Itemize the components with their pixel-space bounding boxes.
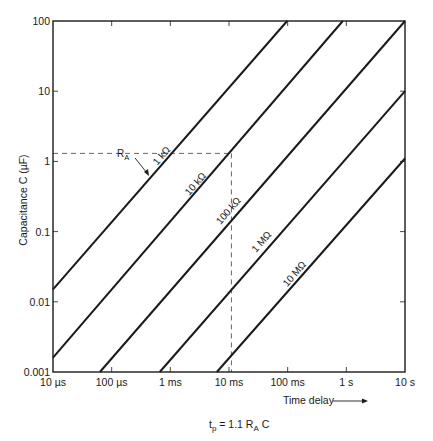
capacitance-time-delay-chart: 10 µs100 µs1 ms10 ms100 ms1 s10 s 100101… xyxy=(0,0,433,441)
series-line xyxy=(217,158,405,372)
svg-text:RA: RA xyxy=(117,148,129,162)
formula: tp = 1.1 RA C xyxy=(209,418,270,433)
series-lines xyxy=(53,21,405,372)
x-tick-label: 100 ms xyxy=(270,376,304,388)
y-tick-label: 1 xyxy=(44,155,50,167)
y-axis-title: Capacitance C (µF) xyxy=(17,154,29,245)
pointer-arrow-icon xyxy=(135,158,147,173)
series-line xyxy=(160,91,405,372)
svg-text:Time delay: Time delay xyxy=(283,394,335,406)
x-tick-label: 1 ms xyxy=(159,376,182,388)
x-tick-label: 10 s xyxy=(395,376,415,388)
y-tick-label: 100 xyxy=(32,15,50,27)
ra-annotation: RA xyxy=(117,148,149,176)
plot-frame xyxy=(53,21,405,372)
x-tick-labels: 10 µs100 µs1 ms10 ms100 ms1 s10 s xyxy=(40,376,415,388)
y-tick-label: 0.1 xyxy=(35,226,50,238)
series-label: 100 kΩ xyxy=(214,195,244,227)
y-tick-label: 0.001 xyxy=(24,366,50,378)
x-tick-label: 10 ms xyxy=(215,376,244,388)
axis-ticks xyxy=(53,21,405,372)
x-axis-title: Time delay xyxy=(283,394,368,406)
series-label: 1 MΩ xyxy=(249,229,273,255)
x-tick-label: 1 s xyxy=(339,376,353,388)
x-tick-label: 100 µs xyxy=(96,376,128,388)
y-tick-label: 0.01 xyxy=(30,296,51,308)
arrowhead-icon xyxy=(362,399,368,404)
series-line xyxy=(53,21,343,358)
y-tick-label: 10 xyxy=(38,85,50,97)
series-line xyxy=(100,21,405,372)
